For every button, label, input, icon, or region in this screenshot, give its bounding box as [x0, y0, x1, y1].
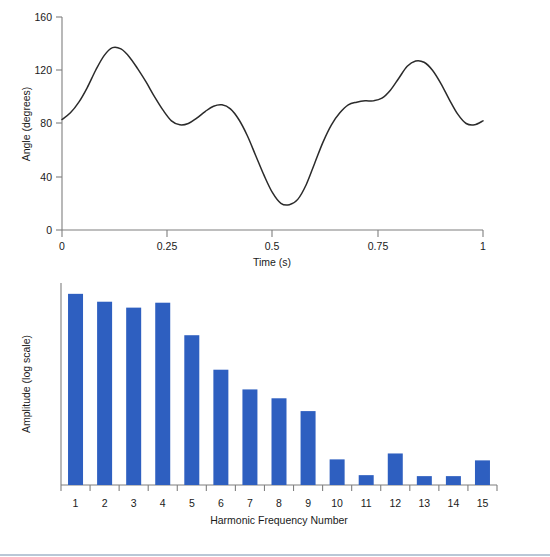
bar-harmonic-2 [97, 302, 112, 485]
bar-x-ticklabel-14: 14 [448, 497, 460, 509]
bar-x-ticklabel-6: 6 [218, 497, 224, 509]
bar-harmonic-11 [359, 475, 374, 485]
x-ticklabel-025: 0.25 [157, 240, 178, 252]
bar-chart-x-axis-title: Harmonic Frequency Number [210, 514, 348, 526]
line-chart-x-axis-title: Time (s) [253, 256, 291, 268]
bar-harmonic-5 [184, 335, 199, 485]
bar-harmonic-15 [475, 460, 490, 485]
figure-container: 160 120 80 40 0 0 0.25 0.5 0.75 1 Time (… [0, 0, 550, 557]
bar-x-ticklabel-1: 1 [73, 497, 79, 509]
bar-x-ticklabel-9: 9 [305, 497, 311, 509]
bar-harmonic-12 [388, 453, 403, 485]
page-bottom-rule [0, 553, 550, 557]
bar-x-ticklabel-8: 8 [276, 497, 282, 509]
bar-chart-x-ticklabels: 123456789101112131415 [73, 497, 489, 509]
y-ticklabel-0: 0 [46, 224, 52, 236]
bar-harmonic-8 [272, 398, 287, 485]
y-ticklabel-80: 80 [40, 117, 52, 129]
bar-chart-y-axis-title: Amplitude (log scale) [20, 335, 32, 433]
angle-vs-time-line-chart: 160 120 80 40 0 0 0.25 0.5 0.75 1 Time (… [0, 0, 550, 270]
line-chart-y-axis-title: Angle (degrees) [20, 87, 32, 162]
x-ticklabel-1: 1 [480, 240, 486, 252]
bar-harmonic-7 [242, 389, 257, 485]
bar-x-ticklabel-2: 2 [102, 497, 108, 509]
x-ticklabel-0: 0 [59, 240, 65, 252]
y-ticklabel-40: 40 [40, 171, 52, 183]
bar-harmonic-6 [213, 370, 228, 485]
y-ticklabel-120: 120 [34, 64, 52, 76]
bar-x-ticklabel-4: 4 [160, 497, 166, 509]
bar-x-ticklabel-10: 10 [331, 497, 343, 509]
harmonic-spectrum-bar-chart: 123456789101112131415 Harmonic Frequency… [0, 270, 550, 557]
bar-x-ticklabel-13: 13 [418, 497, 430, 509]
x-ticklabel-05: 0.5 [265, 240, 280, 252]
bar-harmonic-4 [155, 303, 170, 485]
bar-x-ticklabel-5: 5 [189, 497, 195, 509]
angle-curve [62, 47, 483, 205]
bar-harmonic-14 [446, 476, 461, 485]
bar-x-ticklabel-7: 7 [247, 497, 253, 509]
bar-harmonic-1 [68, 294, 83, 485]
bar-x-ticklabel-12: 12 [389, 497, 401, 509]
bar-chart-x-ticks [61, 485, 497, 491]
bar-harmonic-10 [330, 459, 345, 485]
x-ticklabel-075: 0.75 [368, 240, 389, 252]
bar-x-ticklabel-15: 15 [477, 497, 489, 509]
bar-x-ticklabel-11: 11 [361, 497, 372, 509]
bar-harmonic-3 [126, 308, 141, 485]
bar-harmonic-13 [417, 476, 432, 485]
bar-x-ticklabel-3: 3 [131, 497, 137, 509]
y-ticklabel-160: 160 [34, 11, 52, 23]
bar-harmonic-9 [301, 411, 316, 485]
bar-series [68, 294, 490, 485]
